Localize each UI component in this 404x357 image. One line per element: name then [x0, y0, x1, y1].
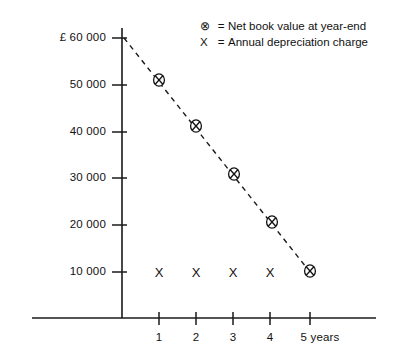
y-tick-label-10000: 10 000: [10, 265, 106, 277]
y-tick-label-60000: £ 60 000: [10, 31, 106, 43]
depreciation-chart: X X X X £ 60 000 50 000 40 000 30 000 20…: [0, 0, 404, 357]
depreciation-charge-marker-year-1: X: [155, 266, 164, 279]
legend-entry-net-book-value: ⊗ = Net book value at year-end: [200, 18, 368, 34]
data-point-year-1: [154, 74, 165, 86]
depreciation-charge-marker-year-2: X: [192, 266, 201, 279]
data-point-year-4: [267, 216, 278, 228]
x-mark-icon: X: [200, 34, 214, 50]
x-tick-label-5-years: 5 years: [288, 331, 352, 343]
legend-entry-depreciation-charge: X = Annual depreciation charge: [200, 34, 368, 50]
chart-legend: ⊗ = Net book value at year-end X = Annua…: [200, 18, 368, 50]
x-tick-label-3: 3: [213, 331, 253, 343]
y-tick-label-40000: 40 000: [10, 125, 106, 137]
legend-label-depreciation-charge: Annual depreciation charge: [228, 34, 368, 50]
y-axis-ticks: [112, 38, 127, 272]
y-tick-label-20000: 20 000: [10, 218, 106, 230]
x-tick-label-4: 4: [250, 331, 290, 343]
depreciation-charge-marker-year-3: X: [229, 266, 238, 279]
data-point-year-2: [191, 120, 202, 132]
y-tick-label-50000: 50 000: [10, 78, 106, 90]
legend-equals-sign-1: =: [214, 34, 228, 50]
data-point-year-5: [305, 265, 316, 277]
x-tick-label-2: 2: [176, 331, 216, 343]
legend-equals-sign-0: =: [214, 18, 228, 34]
net-book-value-trend-line: [124, 38, 310, 272]
depreciation-charge-marker-year-4: X: [266, 266, 275, 279]
data-point-year-3: [229, 168, 240, 180]
legend-label-net-book-value: Net book value at year-end: [228, 18, 366, 34]
circled-x-icon: ⊗: [200, 18, 214, 34]
y-tick-label-30000: 30 000: [10, 171, 106, 183]
x-tick-label-1: 1: [139, 331, 179, 343]
